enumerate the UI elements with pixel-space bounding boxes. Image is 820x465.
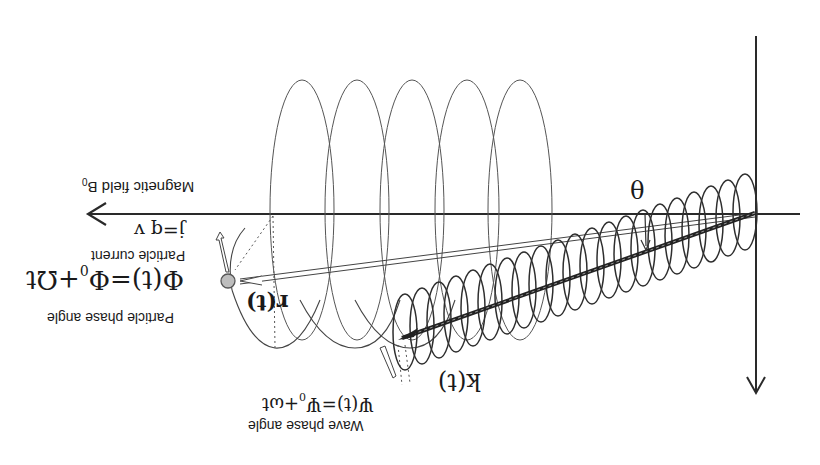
magnetic-field-label: Magnetic field B0 <box>82 176 194 196</box>
particle-current-equation: j=q v <box>134 220 185 242</box>
particle-phase-equation: Φ(t)=Φ0+Ωt <box>26 262 184 295</box>
radius-label: r(t) <box>246 290 289 316</box>
wave-vector <box>398 213 755 340</box>
wave-helix-loops <box>393 174 757 370</box>
wave-particle-diagram: Magnetic field B0 j=q v Particle current… <box>0 0 820 465</box>
wave-phase-equation: Ψ(t)=Ψ0+ωt <box>262 390 374 415</box>
wave-phase-title: Wave phase angle <box>248 418 363 434</box>
particle <box>221 274 235 288</box>
wave-phase-arrow <box>380 346 396 378</box>
wave-vector-label: k(t) <box>438 368 481 396</box>
particle-phase-title: Particle phase angle <box>47 310 174 326</box>
particle-current-arrow <box>216 232 229 272</box>
diagram-graphics <box>0 0 820 465</box>
theta-label: θ <box>630 174 644 202</box>
